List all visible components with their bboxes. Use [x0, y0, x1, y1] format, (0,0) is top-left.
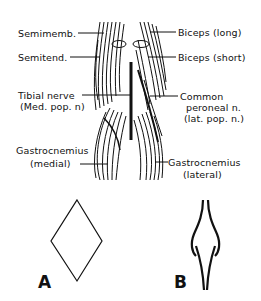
label-tibial-nerve: Tibial nerve: [18, 90, 75, 101]
label-common-peroneal-2: peroneal n.: [186, 102, 241, 113]
label-gastrocnemius-medial: Gastrocnemius: [16, 145, 89, 156]
label-gastrocnemius-lateral: Gastrocnemius: [168, 157, 241, 168]
label-gastrocnemius-medial-sub: (medial): [30, 158, 70, 169]
label-biceps-long: Biceps (long): [178, 27, 241, 38]
label-gastrocnemius-lateral-sub: (lateral): [183, 169, 222, 180]
gastrocnemius-medial: [94, 108, 126, 180]
shape-b: [192, 200, 219, 290]
label-common-peroneal-alt: (lat. pop. n.): [184, 113, 244, 124]
figure-letter-a: A: [38, 272, 51, 292]
label-semitendinosus: Semitend.: [18, 52, 67, 63]
common-peroneal-nerve: [138, 70, 158, 142]
semitend-tendon: [112, 41, 126, 48]
figure-letter-b: B: [174, 272, 187, 292]
label-biceps-short: Biceps (short): [178, 52, 245, 63]
label-tibial-nerve-alt: (Med. pop. n): [20, 101, 85, 112]
label-common-peroneal: Common: [180, 91, 223, 102]
biceps-tendon: [133, 41, 149, 48]
popliteal-fossa-diagram: Semimemb. Semitend. Tibial nerve (Med. p…: [0, 0, 261, 301]
label-semimembranosus: Semimemb.: [18, 28, 76, 39]
left-hamstring-muscles: [94, 22, 124, 110]
gastrocnemius-lateral: [134, 112, 163, 180]
biceps-muscles: [136, 22, 166, 110]
diamond-shape-a: [51, 200, 102, 281]
